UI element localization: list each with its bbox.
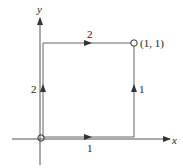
arrow-up-icon: [40, 84, 46, 92]
bottom-segment-label: 1: [87, 142, 93, 154]
diagram-canvas: y x (1, 1) 2 2 1 1: [0, 0, 183, 168]
x-axis-label: x: [171, 134, 177, 146]
endpoint-label: (1, 1): [140, 37, 164, 50]
origin-point: [38, 135, 44, 141]
top-segment-label: 2: [87, 28, 93, 40]
arrow-right-icon: [84, 40, 92, 46]
path-top-segment: [43, 40, 131, 46]
path-left-segment: [40, 43, 46, 137]
left-segment-label: 2: [31, 83, 37, 95]
right-segment-label: 1: [139, 83, 145, 95]
endpoint-point: [131, 40, 137, 46]
path-right-segment: [131, 46, 137, 137]
y-axis-label: y: [36, 3, 42, 15]
arrow-up-icon: [131, 84, 137, 92]
